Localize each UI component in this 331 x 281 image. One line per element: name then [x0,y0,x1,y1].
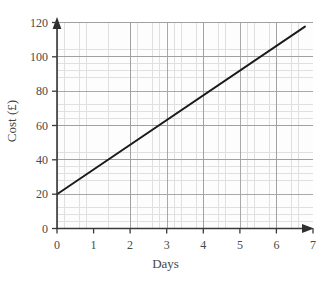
x-tick-label-4: 4 [200,238,206,253]
x-tick-label-1: 1 [91,238,97,253]
y-tick-label-0: 0 [16,221,48,236]
x-tick-label-5: 5 [237,238,243,253]
y-tick-label-100: 100 [16,49,48,64]
x-tick-label-7: 7 [310,238,316,253]
y-tick-label-60: 60 [16,118,48,133]
y-tick-label-40: 40 [16,152,48,167]
cost-line-series [57,27,305,195]
x-tick-label-2: 2 [127,238,133,253]
x-tick-label-0: 0 [54,238,60,253]
chart-figure: 0 20 40 60 80 100 120 0 1 2 3 4 5 6 7 Da… [0,0,331,281]
y-tick-label-20: 20 [16,187,48,202]
x-tick-label-6: 6 [273,238,279,253]
y-axis-title: Cost (£) [4,71,20,171]
y-tick-label-80: 80 [16,84,48,99]
y-tick-label-120: 120 [16,15,48,30]
x-axis-arrowhead-icon [302,224,314,233]
x-axis-title: Days [0,256,331,272]
x-tick-label-3: 3 [164,238,170,253]
